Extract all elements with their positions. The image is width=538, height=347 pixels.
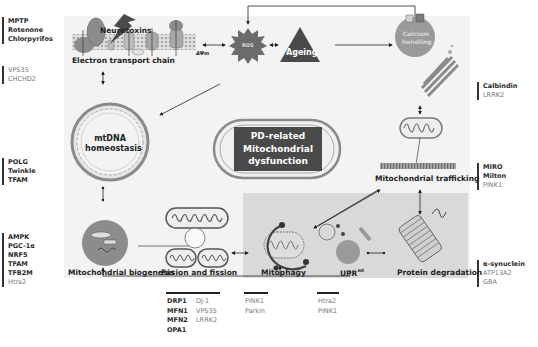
gene-item: α-synuclein bbox=[483, 260, 525, 269]
mitophagy-genes-bar bbox=[244, 292, 268, 294]
gene-item: Milton bbox=[483, 172, 506, 181]
central-title: PD-related Mitochondrial dysfunction bbox=[234, 130, 322, 168]
gene-item: MFN2 bbox=[167, 316, 188, 326]
er-tubules-icon bbox=[422, 57, 458, 96]
toxin-item: Rotenone bbox=[8, 26, 53, 35]
ageing-label: Ageing bbox=[286, 48, 318, 57]
gene-item: LRRK2 bbox=[196, 316, 217, 326]
gene-item: GBA bbox=[483, 278, 525, 287]
gene-item: TFAM bbox=[8, 260, 35, 269]
biogenesis-genes-list: AMPK PGC-1α NRF5 TFAM TFB2M Htra2 bbox=[2, 233, 35, 287]
calcium-genes-list: Calbindin LRRK2 bbox=[477, 82, 517, 100]
gene-item: PGC-1α bbox=[8, 242, 35, 251]
calcium-label: Calcium handling bbox=[402, 30, 430, 46]
gene-item: AMPK bbox=[8, 233, 35, 242]
gene-item: Parkin bbox=[245, 307, 265, 317]
gene-item: Calbindin bbox=[483, 82, 517, 91]
trafficking-genes-list: MIRO Milton PINK1 bbox=[477, 163, 506, 190]
etc-label: Electron transport chain bbox=[72, 56, 175, 65]
delta-psi-label: ΔΨm bbox=[196, 50, 209, 56]
gene-item: POLG bbox=[8, 158, 36, 167]
toxins-list: MPTP Rotenone Chlorpyrifos bbox=[2, 17, 53, 44]
ros-label: ROS bbox=[242, 42, 254, 48]
gene-item: TFAM bbox=[8, 176, 36, 185]
uprmt-genes: Htra2 PINK1 bbox=[318, 297, 337, 316]
uprmt-icon bbox=[319, 224, 370, 264]
toxin-item: MPTP bbox=[8, 17, 53, 26]
mtdna-genes-list: POLG Twinkle TFAM bbox=[2, 158, 36, 185]
mitophagy-label: Mitophagy bbox=[261, 268, 306, 277]
gene-item: CHCHD2 bbox=[8, 75, 36, 84]
gene-item: TFB2M bbox=[8, 269, 35, 278]
fusion-genes-bar bbox=[166, 292, 220, 294]
gene-item: ATP13A2 bbox=[483, 269, 525, 278]
proteasome-icon bbox=[398, 209, 446, 263]
gene-item: VPS35 bbox=[196, 307, 217, 317]
mtdna-label: mtDNA homeostasis bbox=[85, 134, 135, 154]
biogenesis-label: Mitochondrial biogenesis bbox=[68, 268, 174, 277]
mitophagy-genes: PINK1 Parkin bbox=[245, 297, 265, 316]
protein-degradation-label: Protein degradation bbox=[397, 268, 482, 277]
gene-item: NRF5 bbox=[8, 251, 35, 260]
trafficking-label: Mitochondrial trafficking bbox=[375, 174, 479, 183]
etc-genes-list: VPS35 CHCHD2 bbox=[2, 66, 36, 84]
gene-item: PINK1 bbox=[318, 307, 337, 317]
uprmt-label: UPRmt bbox=[340, 268, 364, 278]
gene-item: MFN1 bbox=[167, 307, 188, 317]
gene-item: Htra2 bbox=[8, 278, 35, 287]
gene-item: PINK1 bbox=[483, 181, 506, 190]
gene-item: Htra2 bbox=[318, 297, 337, 307]
uprmt-genes-bar bbox=[317, 292, 339, 294]
toxin-item: Chlorpyrifos bbox=[8, 35, 53, 44]
gene-item: PINK1 bbox=[245, 297, 265, 307]
gene-item: DJ-1 bbox=[196, 297, 217, 307]
gene-item: DRP1 bbox=[167, 297, 188, 307]
gene-item: Twinkle bbox=[8, 167, 36, 176]
gene-item: OPA1 bbox=[167, 326, 188, 336]
etc-membrane-icon bbox=[72, 18, 196, 56]
degradation-genes-list: α-synuclein ATP13A2 GBA bbox=[477, 260, 525, 287]
fusion-genes-bold: DRP1 MFN1 MFN2 OPA1 bbox=[167, 297, 188, 335]
gene-item: MIRO bbox=[483, 163, 506, 172]
fusion-fission-icon bbox=[166, 208, 228, 267]
microtubule-icon bbox=[380, 163, 456, 169]
gene-item: LRRK2 bbox=[483, 91, 517, 100]
trafficking-mitochondrion-icon bbox=[400, 118, 442, 165]
fusion-genes-normal: DJ-1 VPS35 LRRK2 bbox=[196, 297, 217, 326]
gene-item: VPS35 bbox=[8, 66, 36, 75]
mitophagy-icon bbox=[264, 222, 309, 271]
fusion-label: Fusion and fission bbox=[161, 268, 237, 277]
neurotoxins-label: Neurotoxins bbox=[100, 26, 152, 35]
